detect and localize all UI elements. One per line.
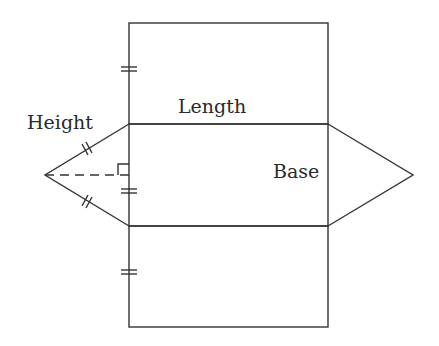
right-triangle-face	[328, 124, 413, 226]
right-angle-mark	[118, 164, 129, 175]
base-label: Base	[273, 162, 319, 181]
left-triangle-face	[45, 124, 129, 226]
length-label: Length	[178, 97, 246, 116]
triangle-tick-upper	[82, 142, 92, 155]
prism-net-diagram: Height Length Base	[0, 0, 439, 346]
triangle-tick-lower	[82, 195, 92, 208]
bottom-rectangle-face	[129, 226, 328, 327]
net-drawing	[0, 0, 439, 346]
height-label: Height	[27, 113, 93, 132]
